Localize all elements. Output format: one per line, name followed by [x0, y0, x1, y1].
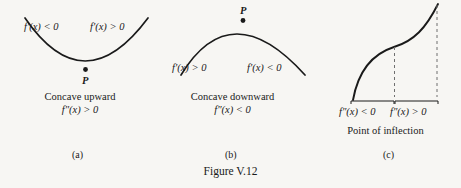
point-p-marker	[83, 67, 88, 72]
brace-right	[395, 101, 438, 104]
panel-c-title: Point of inflection	[310, 126, 461, 137]
right-slope-label-b: f'(x) < 0	[247, 63, 281, 74]
left-brace-label-c: f″(x) < 0	[339, 107, 376, 118]
panel-b-title: Concave downward	[155, 91, 310, 104]
panel-a-concave-upward: f'(x) < 0 f'(x) > 0 P Concave upward f″(…	[0, 0, 160, 165]
right-brace-label-c: f″(x) > 0	[390, 107, 427, 118]
panel-b-second-derivative: f″(x) < 0	[155, 104, 310, 117]
figure-caption: Figure V.12	[0, 166, 461, 178]
figure-v12: f'(x) < 0 f'(x) > 0 P Concave upward f″(…	[0, 0, 461, 188]
panel-a-title: Concave upward	[0, 91, 160, 104]
brace-left	[351, 101, 394, 104]
panel-c-point-of-inflection: f″(x) < 0 f″(x) > 0 Point of inflection …	[310, 0, 461, 165]
panel-letter-a: (a)	[72, 150, 83, 160]
panel-b-concave-downward: P f'(x) > 0 f'(x) < 0 Concave downward f…	[155, 0, 310, 165]
left-slope-label-b: f'(x) > 0	[172, 63, 206, 74]
point-label-a: P	[82, 76, 88, 87]
point-p-marker	[241, 18, 246, 23]
s-curve-inflection	[310, 0, 461, 125]
panel-a-second-derivative: f″(x) > 0	[0, 104, 160, 117]
point-label-b: P	[240, 6, 246, 17]
panel-letter-c: (c)	[383, 150, 394, 160]
panel-letter-b: (b)	[225, 150, 237, 160]
left-slope-label-a: f'(x) < 0	[24, 22, 58, 33]
right-slope-label-a: f'(x) > 0	[90, 22, 124, 33]
